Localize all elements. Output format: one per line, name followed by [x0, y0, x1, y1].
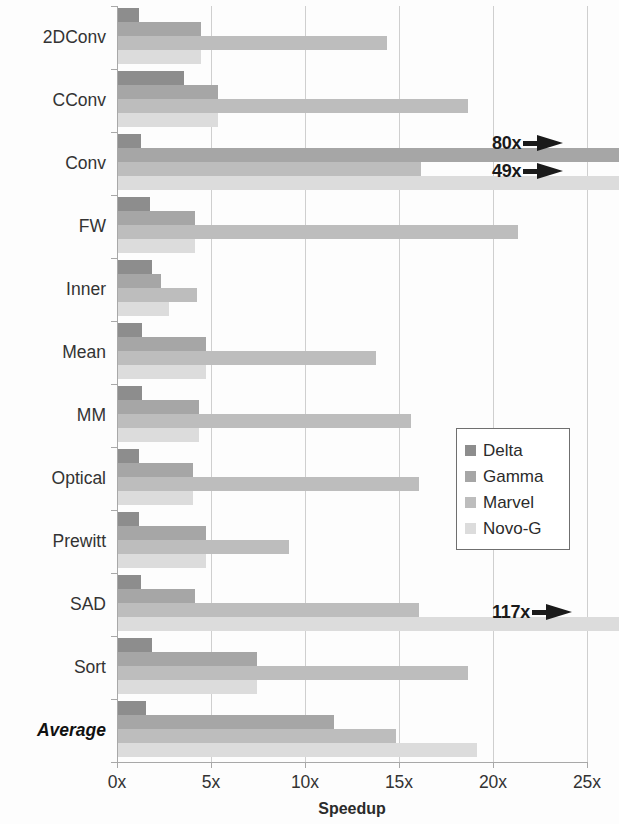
x-tick-20x	[493, 762, 494, 768]
y-tick-inner	[111, 258, 117, 259]
chart-figure: 0x5x10x15x20x25x 2DConvCConvConvFWInnerM…	[0, 0, 619, 824]
arrow-right-icon	[523, 135, 563, 151]
legend-item-delta: Delta	[465, 437, 563, 463]
y-axis-label-2dconv: 2DConv	[0, 29, 106, 47]
x-axis-title: Speedup	[117, 800, 587, 818]
bar-mm-delta	[118, 386, 142, 400]
bar-cconv-novo-g	[118, 113, 218, 127]
bar-conv-delta	[118, 134, 141, 148]
y-axis-label-cconv: CConv	[0, 92, 106, 110]
y-tick-fw	[111, 195, 117, 196]
bar-fw-delta	[118, 197, 150, 211]
bar-prewitt-gamma	[118, 526, 206, 540]
bar-inner-marvel	[118, 288, 197, 302]
y-axis-label-sort: Sort	[0, 659, 106, 677]
legend-label-novo-g: Novo-G	[483, 520, 542, 537]
y-tick-sort	[111, 636, 117, 637]
bar-group-2dconv	[118, 8, 587, 64]
x-tick-label-15x: 15x	[369, 772, 429, 793]
bar-fw-novo-g	[118, 239, 195, 253]
x-tick-label-5x: 5x	[181, 772, 241, 793]
y-tick-prewitt	[111, 510, 117, 511]
arrow-right-icon	[532, 604, 572, 620]
bar-mean-novo-g	[118, 365, 206, 379]
bar-sort-gamma	[118, 652, 257, 666]
bar-2dconv-delta	[118, 8, 139, 22]
x-tick-15x	[399, 762, 400, 768]
y-tick-end	[111, 762, 117, 763]
bar-2dconv-marvel	[118, 36, 387, 50]
annotation-label-49x: 49x	[492, 161, 521, 182]
legend-swatch-gamma	[465, 471, 476, 482]
x-tick-0x	[117, 762, 118, 768]
y-axis-label-prewitt: Prewitt	[0, 533, 106, 551]
annotation-label-80x: 80x	[492, 133, 521, 154]
y-tick-2dconv	[111, 6, 117, 7]
bar-sort-novo-g	[118, 680, 257, 694]
bar-average-delta	[118, 701, 146, 715]
annotation-49x: 49x	[492, 161, 563, 182]
x-tick-label-20x: 20x	[463, 772, 523, 793]
bar-2dconv-gamma	[118, 22, 201, 36]
bar-mm-gamma	[118, 400, 199, 414]
bar-prewitt-marvel	[118, 540, 289, 554]
x-tick-label-25x: 25x	[557, 772, 617, 793]
y-axis-label-average: Average	[0, 722, 106, 740]
arrow-right-icon	[523, 163, 563, 179]
bar-mean-delta	[118, 323, 142, 337]
bar-mean-marvel	[118, 351, 376, 365]
bar-fw-gamma	[118, 211, 195, 225]
bar-sad-marvel	[118, 603, 419, 617]
annotation-80x: 80x	[492, 133, 563, 154]
legend-swatch-delta	[465, 445, 476, 456]
y-tick-mean	[111, 321, 117, 322]
x-tick-label-10x: 10x	[275, 772, 335, 793]
bar-optical-novo-g	[118, 491, 193, 505]
y-axis-label-mean: Mean	[0, 344, 106, 362]
x-tick-10x	[305, 762, 306, 768]
y-axis-label-mm: MM	[0, 407, 106, 425]
bar-prewitt-delta	[118, 512, 139, 526]
annotation-117x: 117x	[492, 602, 572, 623]
y-tick-mm	[111, 384, 117, 385]
bar-prewitt-novo-g	[118, 554, 206, 568]
bar-sad-gamma	[118, 589, 195, 603]
bar-optical-marvel	[118, 477, 419, 491]
bar-average-gamma	[118, 715, 334, 729]
x-tick-5x	[211, 762, 212, 768]
plot-area	[117, 6, 587, 762]
legend-swatch-marvel	[465, 497, 476, 508]
x-axis-line	[117, 762, 588, 763]
bar-cconv-delta	[118, 71, 184, 85]
bar-2dconv-novo-g	[118, 50, 201, 64]
bar-inner-novo-g	[118, 302, 169, 316]
bar-group-cconv	[118, 71, 587, 127]
bar-group-inner	[118, 260, 587, 316]
bar-inner-gamma	[118, 274, 161, 288]
x-tick-label-0x: 0x	[87, 772, 147, 793]
legend-item-gamma: Gamma	[465, 463, 563, 489]
gridline-25x	[587, 6, 588, 762]
bar-average-marvel	[118, 729, 396, 743]
bar-sort-delta	[118, 638, 152, 652]
bar-cconv-gamma	[118, 85, 218, 99]
bar-group-sort	[118, 638, 587, 694]
bar-conv-marvel	[118, 162, 421, 176]
y-axis-label-sad: SAD	[0, 596, 106, 614]
bar-average-novo-g	[118, 743, 477, 757]
legend-label-delta: Delta	[483, 442, 523, 459]
bar-group-average	[118, 701, 587, 757]
y-tick-average	[111, 699, 117, 700]
x-tick-25x	[587, 762, 588, 768]
y-tick-sad	[111, 573, 117, 574]
bar-optical-delta	[118, 449, 139, 463]
y-axis-label-fw: FW	[0, 218, 106, 236]
legend-swatch-novo-g	[465, 523, 476, 534]
annotation-label-117x: 117x	[492, 602, 530, 623]
y-axis-label-conv: Conv	[0, 155, 106, 173]
bar-optical-gamma	[118, 463, 193, 477]
bar-mm-marvel	[118, 414, 411, 428]
y-axis-label-optical: Optical	[0, 470, 106, 488]
bar-mm-novo-g	[118, 428, 199, 442]
legend-item-marvel: Marvel	[465, 489, 563, 515]
